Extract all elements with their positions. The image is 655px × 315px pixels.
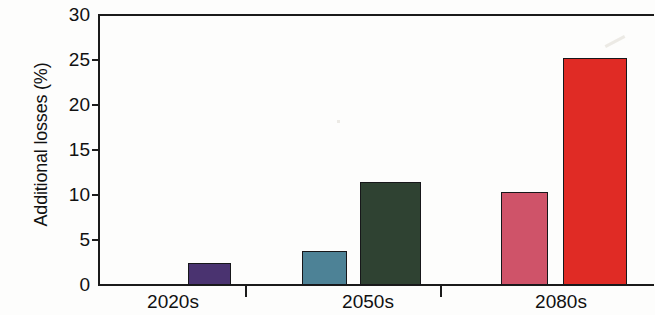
x-axis-group-separator [440,286,442,297]
bar-2080s-2 [563,58,627,285]
scan-artifact [337,120,340,123]
x-axis-group-label: 2080s [511,292,611,311]
bar-2080s-1 [501,192,548,285]
x-axis-group-label: 2020s [123,292,223,311]
bar-2020s-1 [188,263,231,285]
x-axis-group-separator [245,286,247,297]
bar-chart: Additional losses (%) 302520151050 2020s… [0,0,655,315]
bar-2050s-2 [360,182,421,286]
bars-layer [0,15,655,285]
x-axis-group-label: 2050s [318,292,418,311]
bar-2050s-1 [302,251,347,285]
